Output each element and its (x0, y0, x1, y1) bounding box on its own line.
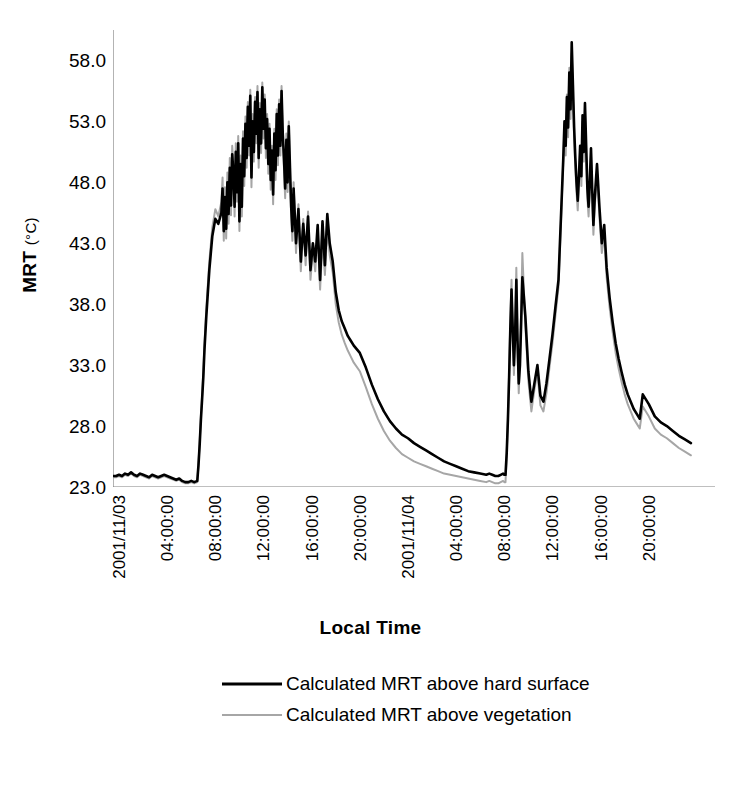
legend-label: Calculated MRT above hard surface (286, 674, 589, 693)
mrt-chart-figure: MRT (°C) 23.028.033.038.043.048.053.058.… (0, 0, 741, 791)
x-tick-label: 12:00:00 (544, 495, 561, 561)
x-tick-label: 04:00:00 (448, 495, 465, 561)
legend-line-swatch (222, 678, 282, 690)
x-tick-label: 20:00:00 (641, 495, 658, 561)
legend-item: Calculated MRT above vegetation (0, 699, 741, 730)
x-tick-label: 2001/11/03 (111, 495, 128, 579)
x-tick-label: 2001/11/04 (400, 495, 417, 579)
legend-label: Calculated MRT above vegetation (286, 705, 572, 724)
x-tick-label: 16:00:00 (304, 495, 321, 561)
x-tick-label: 08:00:00 (496, 495, 513, 561)
x-tick-label: 16:00:00 (593, 495, 610, 561)
x-tick-label: 20:00:00 (352, 495, 369, 561)
chart-legend: Calculated MRT above hard surfaceCalcula… (0, 668, 741, 730)
x-axis-title: Local Time (0, 617, 741, 639)
x-tick-label: 12:00:00 (255, 495, 272, 561)
legend-swatch-line (222, 682, 282, 685)
x-tick-label: 04:00:00 (159, 495, 176, 561)
legend-line-swatch (222, 709, 282, 721)
legend-swatch-line (222, 714, 282, 716)
x-tick-label: 08:00:00 (207, 495, 224, 561)
legend-item: Calculated MRT above hard surface (0, 668, 741, 699)
